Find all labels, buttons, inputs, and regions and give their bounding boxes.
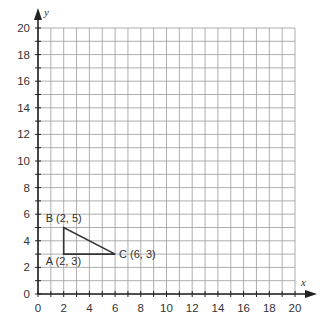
y-tick-label: 0: [24, 288, 30, 300]
x-tick-label: 14: [212, 302, 225, 314]
x-tick-label: 10: [160, 302, 173, 314]
x-axis-label: x: [300, 276, 306, 288]
y-tick-label: 4: [24, 235, 31, 247]
x-tick-label: 20: [289, 302, 302, 314]
y-axis-arrow-icon: [34, 8, 42, 20]
x-tick-label: 12: [186, 302, 199, 314]
y-axis-label: y: [43, 6, 49, 18]
y-tick-label: 8: [24, 182, 30, 194]
x-tick-label: 18: [263, 302, 276, 314]
y-tick-label: 12: [17, 128, 30, 140]
y-tick-label: 10: [17, 155, 30, 167]
coordinate-grid: xy0246810121416182002468101214161820A (2…: [0, 0, 325, 326]
x-tick-label: 0: [35, 302, 41, 314]
y-tick-label: 18: [17, 49, 30, 61]
y-tick-label: 6: [24, 208, 30, 220]
x-tick-label: 2: [60, 302, 66, 314]
point-label-b: B (2, 5): [46, 212, 82, 224]
point-label-c: C (6, 3): [119, 248, 156, 260]
point-label-a: A (2, 3): [46, 255, 81, 267]
y-tick-label: 16: [17, 75, 30, 87]
y-tick-label: 20: [17, 22, 30, 34]
x-tick-label: 6: [112, 302, 118, 314]
x-tick-label: 4: [86, 302, 93, 314]
x-tick-label: 16: [237, 302, 250, 314]
y-tick-label: 2: [24, 261, 30, 273]
x-axis-arrow-icon: [305, 290, 317, 298]
y-tick-label: 14: [17, 102, 30, 114]
x-tick-label: 8: [138, 302, 144, 314]
